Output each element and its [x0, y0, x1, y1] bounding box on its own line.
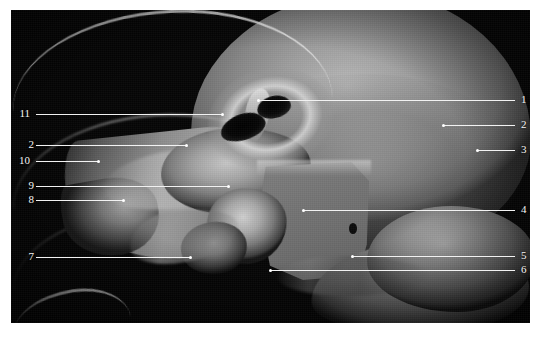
- leader-endpoint-8: [122, 199, 125, 202]
- leader-endpoint-4: [302, 209, 305, 212]
- label-number-8-left: 8: [18, 194, 34, 205]
- leader-endpoint-6: [269, 269, 272, 272]
- label-number-6-right: 6: [521, 264, 537, 275]
- label-number-2-left: 2: [18, 139, 34, 150]
- figure-page: 11210987123456: [0, 0, 540, 340]
- leader-endpoint-2: [442, 124, 445, 127]
- label-number-9-left: 9: [18, 180, 34, 191]
- label-number-4-right: 4: [521, 204, 537, 215]
- leader-endpoint-10: [97, 160, 100, 163]
- cut-surface-edge: [257, 160, 371, 176]
- label-number-3-right: 3: [521, 144, 537, 155]
- leader-endpoint-11: [221, 113, 224, 116]
- label-number-10-left: 10: [14, 155, 30, 166]
- leader-endpoint-2: [185, 144, 188, 147]
- label-number-1-right: 1: [521, 94, 537, 105]
- foramen-opening: [349, 223, 357, 234]
- label-number-2-right: 2: [521, 119, 537, 130]
- leader-endpoint-1: [257, 99, 260, 102]
- leader-endpoint-3: [476, 149, 479, 152]
- specimen-photograph: [11, 10, 530, 323]
- label-number-7-left: 7: [18, 251, 34, 262]
- leader-endpoint-7: [189, 256, 192, 259]
- label-number-5-right: 5: [521, 250, 537, 261]
- label-number-11-left: 11: [14, 108, 30, 119]
- leader-endpoint-5: [351, 255, 354, 258]
- leader-endpoint-9: [227, 185, 230, 188]
